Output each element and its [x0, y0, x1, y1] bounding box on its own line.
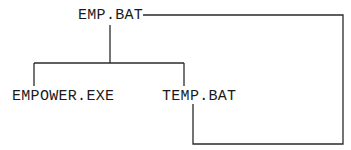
- diagram-canvas: EMP.BAT EMPOWER.EXE TEMP.BAT: [0, 0, 351, 150]
- node-temp-bat: TEMP.BAT: [162, 88, 236, 106]
- node-emp-bat: EMP.BAT: [78, 7, 143, 25]
- loop-back-line: [143, 15, 343, 144]
- connector-lines: [0, 0, 351, 150]
- node-empower-exe: EMPOWER.EXE: [12, 88, 114, 106]
